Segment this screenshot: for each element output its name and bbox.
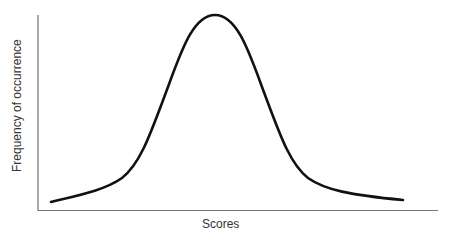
bell-curve-chart [0,0,452,232]
y-axis-label: Frequency of occurrence [10,39,24,172]
x-axis-label: Scores [202,217,239,231]
normal-distribution-curve [51,15,403,202]
